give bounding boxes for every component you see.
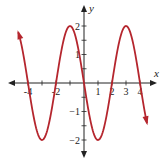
y-tick-label: −1 <box>69 106 80 117</box>
y-axis-label: y <box>88 2 94 14</box>
y-axis-up-arrow-icon <box>81 5 87 12</box>
axes <box>8 5 157 158</box>
y-tick-label: 2 <box>75 21 80 32</box>
chart-plot: xy-4-2123421−1−2 <box>0 0 163 159</box>
x-tick-label: 1 <box>96 86 101 97</box>
x-axis-label: x <box>153 67 159 79</box>
y-axis-down-arrow-icon <box>81 151 87 158</box>
curve-right-arrow-icon <box>143 116 149 125</box>
y-tick-label: −2 <box>69 135 80 146</box>
curve-left-arrow-icon <box>18 30 24 39</box>
x-axis-right-arrow-icon <box>150 80 157 86</box>
x-axis-left-arrow-icon <box>8 80 15 86</box>
x-tick-label: 3 <box>124 86 129 97</box>
